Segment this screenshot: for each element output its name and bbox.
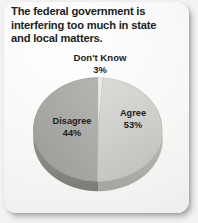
pie-label-dontknow-value: 3% (45, 65, 155, 76)
pie-label-dontknow-name: Don't Know (45, 53, 155, 64)
pie-label-agree: Agree 53% (101, 108, 165, 130)
pie-label-disagree-value: 44% (37, 128, 107, 139)
pie-label-agree-name: Agree (101, 108, 165, 119)
pie-label-agree-value: 53% (101, 120, 165, 131)
pie-label-disagree-name: Disagree (37, 116, 107, 127)
infographic-card: The federal government is interfering to… (4, 2, 189, 213)
card-inner: The federal government is interfering to… (4, 2, 189, 213)
pie-label-dontknow: Don't Know 3% (45, 53, 155, 75)
pie-label-disagree: Disagree 44% (37, 116, 107, 138)
